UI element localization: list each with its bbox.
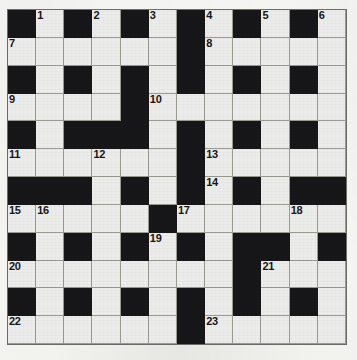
letter-cell[interactable] <box>121 316 149 344</box>
letter-cell[interactable]: 6 <box>318 10 346 38</box>
letter-cell[interactable]: 18 <box>290 205 318 233</box>
letter-cell[interactable]: 4 <box>205 10 233 38</box>
letter-cell[interactable] <box>149 149 177 177</box>
letter-cell[interactable] <box>261 149 289 177</box>
letter-cell[interactable]: 16 <box>36 205 64 233</box>
letter-cell[interactable] <box>92 94 120 122</box>
letter-cell[interactable] <box>261 205 289 233</box>
letter-cell[interactable] <box>318 121 346 149</box>
letter-cell[interactable] <box>290 261 318 289</box>
letter-cell[interactable] <box>92 288 120 316</box>
letter-cell[interactable] <box>36 233 64 261</box>
letter-cell[interactable] <box>205 233 233 261</box>
letter-cell[interactable]: 22 <box>8 316 36 344</box>
letter-cell[interactable] <box>64 316 92 344</box>
letter-cell[interactable] <box>233 38 261 66</box>
letter-cell[interactable] <box>233 94 261 122</box>
letter-cell[interactable] <box>36 66 64 94</box>
letter-cell[interactable]: 21 <box>261 261 289 289</box>
letter-cell[interactable] <box>261 316 289 344</box>
letter-cell[interactable] <box>149 288 177 316</box>
letter-cell[interactable] <box>92 205 120 233</box>
letter-cell[interactable]: 12 <box>92 149 120 177</box>
letter-cell[interactable] <box>233 316 261 344</box>
letter-cell[interactable] <box>149 177 177 205</box>
letter-cell[interactable] <box>64 261 92 289</box>
letter-cell[interactable] <box>318 316 346 344</box>
letter-cell[interactable] <box>36 149 64 177</box>
letter-cell[interactable] <box>261 94 289 122</box>
letter-cell[interactable] <box>36 121 64 149</box>
letter-cell[interactable] <box>64 149 92 177</box>
letter-cell[interactable] <box>64 38 92 66</box>
letter-cell[interactable] <box>261 66 289 94</box>
letter-cell[interactable]: 10 <box>149 94 177 122</box>
letter-cell[interactable] <box>205 205 233 233</box>
letter-cell[interactable] <box>261 288 289 316</box>
letter-cell[interactable] <box>92 261 120 289</box>
letter-cell[interactable] <box>121 261 149 289</box>
letter-cell[interactable]: 2 <box>92 10 120 38</box>
letter-cell[interactable] <box>36 288 64 316</box>
letter-cell[interactable] <box>318 261 346 289</box>
letter-cell[interactable] <box>290 233 318 261</box>
letter-cell[interactable]: 23 <box>205 316 233 344</box>
letter-cell[interactable] <box>36 261 64 289</box>
letter-cell[interactable] <box>64 94 92 122</box>
letter-cell[interactable] <box>318 66 346 94</box>
letter-cell[interactable] <box>205 288 233 316</box>
letter-cell[interactable]: 19 <box>149 233 177 261</box>
letter-cell[interactable]: 5 <box>261 10 289 38</box>
letter-cell[interactable]: 13 <box>205 149 233 177</box>
letter-cell[interactable] <box>149 66 177 94</box>
letter-cell[interactable] <box>205 261 233 289</box>
letter-cell[interactable] <box>261 177 289 205</box>
letter-cell[interactable] <box>92 177 120 205</box>
letter-cell[interactable] <box>290 38 318 66</box>
letter-cell[interactable]: 1 <box>36 10 64 38</box>
letter-cell[interactable] <box>149 316 177 344</box>
letter-cell[interactable] <box>36 38 64 66</box>
letter-cell[interactable] <box>149 121 177 149</box>
letter-cell[interactable] <box>318 94 346 122</box>
letter-cell[interactable] <box>205 121 233 149</box>
letter-cell[interactable] <box>149 38 177 66</box>
letter-cell[interactable] <box>261 38 289 66</box>
letter-cell[interactable] <box>177 94 205 122</box>
letter-cell[interactable] <box>36 316 64 344</box>
letter-cell[interactable] <box>205 94 233 122</box>
letter-cell[interactable] <box>318 149 346 177</box>
letter-cell[interactable] <box>64 205 92 233</box>
letter-cell[interactable] <box>121 38 149 66</box>
letter-cell[interactable] <box>290 94 318 122</box>
block-cell <box>318 177 346 205</box>
letter-cell[interactable]: 14 <box>205 177 233 205</box>
letter-cell[interactable]: 8 <box>205 38 233 66</box>
letter-cell[interactable]: 3 <box>149 10 177 38</box>
letter-cell[interactable]: 20 <box>8 261 36 289</box>
letter-cell[interactable] <box>290 316 318 344</box>
letter-cell[interactable] <box>92 38 120 66</box>
letter-cell[interactable]: 17 <box>177 205 205 233</box>
letter-cell[interactable] <box>290 149 318 177</box>
letter-cell[interactable]: 15 <box>8 205 36 233</box>
letter-cell[interactable]: 9 <box>8 94 36 122</box>
letter-cell[interactable] <box>318 205 346 233</box>
letter-cell[interactable] <box>92 233 120 261</box>
letter-cell[interactable] <box>121 205 149 233</box>
letter-cell[interactable] <box>233 149 261 177</box>
letter-cell[interactable] <box>92 316 120 344</box>
letter-cell[interactable] <box>36 94 64 122</box>
letter-cell[interactable] <box>205 66 233 94</box>
letter-cell[interactable] <box>261 121 289 149</box>
letter-cell[interactable] <box>121 149 149 177</box>
letter-cell[interactable] <box>318 38 346 66</box>
letter-cell[interactable] <box>233 205 261 233</box>
letter-cell[interactable]: 11 <box>8 149 36 177</box>
letter-cell[interactable]: 7 <box>8 38 36 66</box>
crossword-grid[interactable]: 1234567891011121314151617181920212223 <box>7 9 347 345</box>
letter-cell[interactable] <box>318 288 346 316</box>
letter-cell[interactable] <box>149 261 177 289</box>
letter-cell[interactable] <box>177 261 205 289</box>
letter-cell[interactable] <box>92 66 120 94</box>
